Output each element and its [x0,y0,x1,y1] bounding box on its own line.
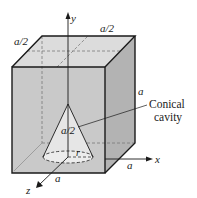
label-top-left-dim: a/2 [14,35,29,47]
callout-label-line2: cavity [154,111,182,124]
label-y-axis: y [70,12,76,24]
label-x-axis: x [154,153,160,165]
callout-label-line1: Conical [149,98,185,110]
label-cone-radius: r [76,147,80,158]
y-axis-arrow-icon [66,12,71,19]
label-z-axis: z [25,184,31,196]
label-right-height: a [138,85,144,97]
label-top-back-dim: a/2 [100,22,115,34]
label-z-dim: a [55,172,61,184]
label-cone-height: a/2 [61,124,76,136]
cube-diagram: a/2 a/2 y a Conical cavity a/2 r a x a z [0,0,197,198]
x-axis-arrow-icon [146,157,153,162]
label-x-dim: a [127,159,133,171]
